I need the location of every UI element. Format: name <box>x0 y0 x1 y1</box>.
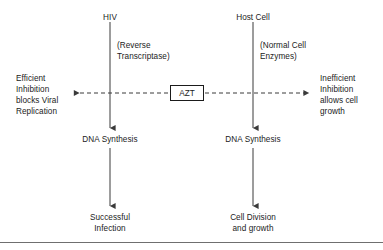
node-successful-infection: Successful Infection <box>90 212 130 234</box>
annotation-reverse-transcriptase: (Reverse Transcriptase) <box>117 40 170 62</box>
node-hiv: HIV <box>103 12 117 23</box>
node-dna-synthesis-left: DNA Synthesis <box>82 134 137 145</box>
annotation-normal-cell-enzymes: (Normal Cell Enzymes) <box>260 40 306 62</box>
node-host-cell: Host Cell <box>236 12 270 23</box>
diagram-canvas <box>0 0 383 250</box>
node-dna-synthesis-right: DNA Synthesis <box>225 134 280 145</box>
node-right-outcome-inefficient-inhibition: Inefficient Inhibition allows cell growt… <box>320 73 358 117</box>
node-azt-box: AZT <box>170 85 204 101</box>
node-cell-division-and-growth: Cell Division and growth <box>230 212 276 234</box>
bottom-divider <box>0 242 383 243</box>
node-left-outcome-efficient-inhibition: Efficient Inhibition blocks Viral Replic… <box>16 73 58 117</box>
azt-label: AZT <box>179 89 194 98</box>
azt-mechanism-diagram: HIV Host Cell (Reverse Transcriptase) (N… <box>0 0 383 250</box>
